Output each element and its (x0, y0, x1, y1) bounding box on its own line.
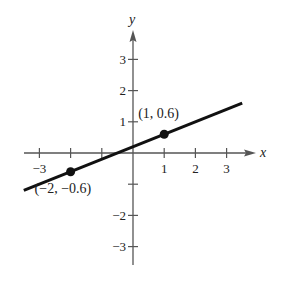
axes: xy (24, 12, 267, 265)
x-tick-label: 2 (192, 161, 199, 176)
y-tick-label: 2 (120, 83, 127, 98)
x-tick-label: −3 (32, 161, 46, 176)
coordinate-plane: xy −3123−3−2123 (−2, −0.6)(1, 0.6) (0, 0, 281, 283)
y-tick-label: 1 (120, 114, 127, 129)
data-point (160, 130, 169, 139)
data-points: (−2, −0.6)(1, 0.6) (35, 106, 180, 196)
point-label: (1, 0.6) (138, 106, 179, 122)
x-tick-label: 3 (223, 161, 230, 176)
x-tick-label: 1 (161, 161, 168, 176)
y-axis-label: y (127, 12, 136, 27)
data-point (66, 167, 75, 176)
x-axis-label: x (259, 145, 267, 160)
point-label: (−2, −0.6) (35, 181, 92, 197)
y-tick-label: −3 (112, 239, 126, 254)
y-tick-label: 3 (120, 52, 127, 67)
y-tick-label: −2 (112, 208, 126, 223)
